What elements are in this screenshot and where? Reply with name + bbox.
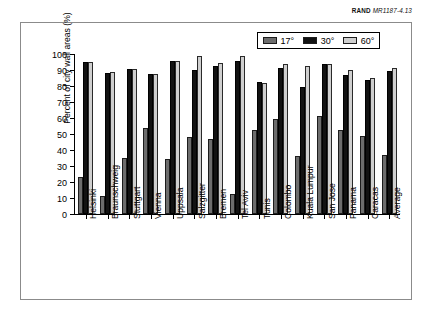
source-credit: RANDMR1187-4.13 [352,7,412,14]
y-axis-tick: 70 [70,102,75,103]
x-axis-category-label: Bremen [218,189,228,219]
x-axis-labels: HelsinkiBraunschweigStuttgartViennaUppsa… [74,219,399,295]
y-axis-tick-label: 50 [57,130,67,140]
figure-container: RANDMR1187-4.13 Percent of city wall are… [0,0,427,316]
y-axis-tick: 50 [70,134,75,135]
legend-item: 17° [263,36,294,46]
x-axis-category-label: Tel Aviv [240,190,250,219]
y-axis-tick-label: 30 [57,162,67,172]
y-axis-tick: 10 [70,198,75,199]
y-axis-tick-label: 100 [52,50,67,60]
y-axis-tick-label: 10 [57,194,67,204]
x-axis-category-label: Colombo [283,185,293,219]
legend-swatch [303,37,317,45]
y-axis-tick-label: 70 [57,98,67,108]
chart-outer-frame: Percent of city wall areas (%) 17°30°60°… [20,22,412,300]
x-axis-category-label: Average [392,187,402,219]
x-axis-category-label: Caracas [370,187,380,219]
y-axis-tick: 60 [70,118,75,119]
y-axis-tick: 90 [70,70,75,71]
x-axis-category-label: Tunis [262,198,272,219]
legend-swatch [263,37,277,45]
x-axis-category-label: San Jose [327,183,337,219]
x-axis-category-label: Helsinki [88,189,98,219]
y-axis-tick-label: 80 [57,82,67,92]
bar-group [252,54,267,214]
y-axis-tick: 40 [70,150,75,151]
legend-item: 60° [343,36,374,46]
chart-legend: 17°30°60° [257,32,380,49]
y-axis-tick-label: 0 [62,210,67,220]
x-axis-category-label: Salzgitter [197,183,207,219]
legend-label: 30° [321,36,335,46]
x-axis-category-label: Stuttgart [132,187,142,219]
y-axis-tick: 80 [70,86,75,87]
y-axis-tick: 0 [70,214,75,215]
y-axis-tick-label: 60 [57,114,67,124]
y-axis-tick-label: 20 [57,178,67,188]
x-axis-category-label: Vienna [153,192,163,219]
bar [262,83,267,214]
credit-organization: RAND [352,7,371,14]
legend-swatch [343,37,357,45]
x-axis-category-label: Braunschweig [110,165,120,219]
y-axis-tick-label: 40 [57,146,67,156]
credit-document-id: MR1187-4.13 [373,7,412,14]
bar-group [143,54,158,214]
y-axis-tick: 100 [70,54,75,55]
x-axis-category-label: Uppsala [175,187,185,219]
y-axis-tick: 30 [70,166,75,167]
y-axis-tick-label: 90 [57,66,67,76]
x-axis-category-label: Panama [348,187,358,219]
legend-label: 17° [281,36,295,46]
x-axis-category-label: Kuala Lumpur [305,165,315,219]
y-axis-tick: 20 [70,182,75,183]
legend-label: 60° [361,36,375,46]
legend-item: 30° [303,36,334,46]
